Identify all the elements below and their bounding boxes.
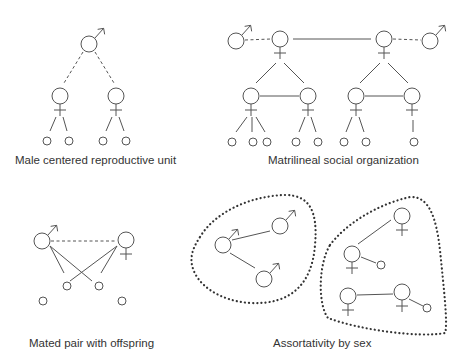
- offspring-circle-icon: [95, 282, 103, 290]
- solid-link: [70, 246, 117, 281]
- offspring-circle-icon: [65, 137, 73, 145]
- offspring-circle-icon: [340, 138, 348, 146]
- offspring-circle-icon: [423, 304, 431, 312]
- male-symbol-icon: [215, 229, 239, 253]
- dashed-link: [64, 52, 83, 83]
- offspring-circle-icon: [43, 137, 51, 145]
- female-symbol-icon: [52, 88, 68, 116]
- dashed-link: [393, 39, 421, 40]
- female-symbol-icon: [118, 232, 134, 260]
- caption-assortativity: Assortativity by sex: [273, 337, 371, 349]
- solid-link: [119, 117, 124, 131]
- solid-link: [101, 246, 117, 273]
- caption-mated-pair: Mated pair with offspring: [29, 337, 154, 349]
- female-symbol-icon: [340, 288, 356, 316]
- panel-assortativity-by-sex: [191, 195, 446, 335]
- solid-link: [50, 117, 56, 131]
- female-symbol-icon: [300, 88, 316, 116]
- solid-link: [311, 117, 316, 132]
- female-symbol-icon: [344, 246, 360, 274]
- female-symbol-icon: [394, 284, 410, 312]
- solid-link: [299, 117, 305, 132]
- solid-link: [50, 246, 64, 273]
- solid-link: [106, 117, 112, 131]
- female-symbol-icon: [108, 88, 124, 116]
- solid-link: [357, 294, 393, 295]
- solid-link: [50, 246, 92, 281]
- female-symbol-icon: [394, 208, 410, 236]
- offspring-circle-icon: [228, 138, 236, 146]
- solid-link: [284, 63, 304, 83]
- offspring-circle-icon: [263, 138, 271, 146]
- caption-matrilineal: Matrilineal social organization: [268, 154, 419, 166]
- solid-link: [256, 117, 265, 132]
- male-symbol-icon: [422, 25, 446, 49]
- offspring-circle-icon: [292, 138, 300, 146]
- female-symbol-icon: [272, 31, 288, 59]
- male-symbol-icon: [228, 25, 252, 49]
- female-symbol-icon: [348, 88, 364, 116]
- offspring-circle-icon: [314, 138, 322, 146]
- solid-link: [230, 253, 255, 268]
- offspring-circle-icon: [39, 297, 47, 305]
- solid-link: [256, 63, 276, 83]
- solid-link: [236, 117, 247, 132]
- male-symbol-icon: [34, 225, 58, 249]
- diagram-stage: Male centered reproductive unit Matrilin…: [0, 0, 463, 364]
- offspring-circle-icon: [63, 282, 71, 290]
- offspring-circle-icon: [99, 137, 107, 145]
- female-symbol-icon: [376, 31, 392, 59]
- solid-link: [63, 117, 67, 131]
- offspring-circle-icon: [362, 138, 370, 146]
- dashed-link: [245, 39, 271, 40]
- solid-link: [358, 220, 391, 244]
- offspring-circle-icon: [249, 138, 257, 146]
- male-symbol-icon: [256, 263, 280, 287]
- female-symbol-icon: [404, 88, 420, 116]
- solid-link: [409, 299, 423, 306]
- group-boundary: [321, 197, 446, 335]
- social-structure-diagram: [0, 0, 463, 364]
- female-symbol-icon: [243, 88, 259, 116]
- solid-link: [388, 63, 408, 83]
- solid-link: [361, 257, 376, 263]
- male-symbol-icon: [81, 28, 105, 52]
- solid-link: [359, 117, 364, 132]
- offspring-circle-icon: [122, 137, 130, 145]
- panel-matrilineal-social-organization: [228, 25, 446, 146]
- caption-male-centered: Male centered reproductive unit: [15, 154, 176, 166]
- offspring-circle-icon: [377, 261, 385, 269]
- offspring-circle-icon: [118, 297, 126, 305]
- male-symbol-icon: [272, 210, 296, 234]
- offspring-circle-icon: [410, 138, 418, 146]
- solid-link: [346, 117, 352, 132]
- solid-link: [360, 63, 380, 83]
- dashed-link: [95, 52, 114, 83]
- group-boundary: [191, 195, 315, 303]
- panel-mated-pair-with-offspring: [34, 225, 134, 305]
- panel-male-centered-reproductive-unit: [43, 28, 130, 145]
